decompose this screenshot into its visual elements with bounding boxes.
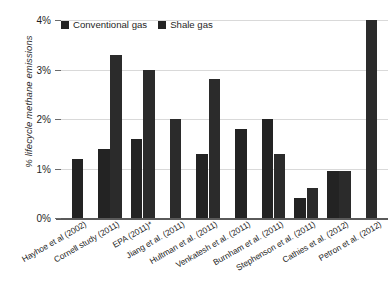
y-tick-label-3%: 3% [0, 64, 51, 75]
y-tick-label-1%: 1% [0, 163, 51, 174]
bar-shale-gas[interactable] [110, 55, 122, 218]
methane-emissions-bar-chart: % lifecycle methane emissions Convention… [0, 0, 392, 288]
y-tick-mark-4% [55, 20, 61, 21]
bars-layer [61, 20, 388, 218]
y-tick-label-2%: 2% [0, 114, 51, 125]
bar-conventional-gas[interactable] [196, 154, 208, 218]
bar-conventional-gas[interactable] [98, 149, 110, 218]
y-tick-label-4%: 4% [0, 15, 51, 26]
y-tick-mark-2% [55, 119, 61, 120]
bar-shale-gas[interactable] [366, 20, 378, 218]
y-tick-mark-1% [55, 169, 61, 170]
bar-conventional-gas[interactable] [262, 119, 274, 218]
plot-area [61, 20, 388, 218]
y-tick-mark-3% [55, 70, 61, 71]
bar-shale-gas[interactable] [339, 171, 351, 218]
bar-conventional-gas[interactable] [294, 198, 306, 218]
bar-conventional-gas[interactable] [72, 159, 84, 218]
bar-shale-gas[interactable] [307, 188, 319, 218]
bar-shale-gas[interactable] [274, 154, 286, 218]
bar-shale-gas[interactable] [143, 70, 155, 219]
x-axis-tick-labels: Hayhoe et al (2002)Cornell study (2011)E… [0, 219, 392, 288]
bar-conventional-gas[interactable] [131, 139, 143, 218]
bar-shale-gas[interactable] [209, 79, 221, 218]
bar-shale-gas[interactable] [170, 119, 182, 218]
bar-conventional-gas[interactable] [235, 129, 247, 218]
bar-conventional-gas[interactable] [327, 171, 339, 218]
